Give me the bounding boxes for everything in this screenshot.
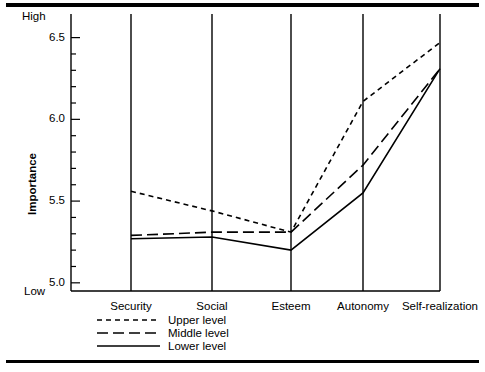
y-axis-high-label: High	[22, 11, 46, 23]
category-label-social: Social	[182, 301, 242, 313]
category-label-esteem: Esteem	[261, 301, 321, 313]
category-label-self-realization: Self-realization	[391, 301, 485, 313]
axes-group	[71, 14, 440, 291]
figure-container: 6.5 6.0 5.5 5.0 High Low Importance Secu…	[0, 0, 485, 372]
y-axis-low-label: Low	[24, 286, 45, 298]
line-chart-plot	[0, 0, 485, 372]
legend-label-lower-level: Lower level	[168, 340, 226, 352]
category-label-security: Security	[96, 301, 166, 313]
category-label-autonomy: Autonomy	[326, 301, 400, 313]
legend-label-middle-level: Middle level	[168, 327, 229, 339]
y-tick-marks	[71, 38, 80, 283]
series-line-upper-level	[131, 43, 440, 233]
y-axis-title: Importance	[26, 153, 38, 215]
series-line-middle-level	[131, 69, 440, 236]
series-line-lower-level	[131, 69, 440, 250]
y-tick-label: 6.0	[25, 113, 65, 125]
y-tick-label: 6.5	[25, 32, 65, 44]
legend-line-samples	[97, 320, 160, 346]
legend-label-upper-level: Upper level	[168, 314, 226, 326]
data-series-group	[131, 43, 440, 251]
